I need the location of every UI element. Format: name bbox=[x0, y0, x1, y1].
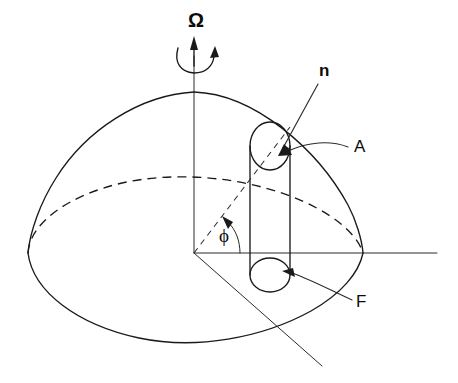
phi-label: ϕ bbox=[219, 226, 229, 245]
depth-axis bbox=[194, 253, 322, 366]
diagram-canvas bbox=[0, 0, 458, 383]
omega-arc-arrowhead bbox=[210, 46, 219, 58]
n-leader-line bbox=[283, 84, 318, 148]
omega-up-arrowhead bbox=[190, 36, 198, 50]
A-leader bbox=[278, 143, 348, 156]
n-label: n bbox=[319, 62, 329, 79]
omega-label: Ω bbox=[188, 10, 204, 30]
cylinder-bottom-cap bbox=[250, 258, 290, 292]
figure-root: Ω n A F ϕ bbox=[0, 0, 458, 383]
n-leader bbox=[278, 84, 318, 156]
F-leader bbox=[282, 268, 352, 300]
coordinate-axes bbox=[194, 56, 437, 366]
omega-rotation-arc bbox=[177, 48, 214, 73]
radial-dashed-line bbox=[194, 127, 290, 253]
A-label: A bbox=[354, 138, 365, 155]
equator-ellipse bbox=[28, 177, 363, 253]
A-leader-line bbox=[288, 143, 348, 151]
F-label: F bbox=[356, 293, 366, 310]
F-leader-arrowhead bbox=[282, 268, 295, 277]
rotation-arrow-group bbox=[177, 36, 219, 73]
teardrop-body-outline bbox=[28, 92, 363, 343]
